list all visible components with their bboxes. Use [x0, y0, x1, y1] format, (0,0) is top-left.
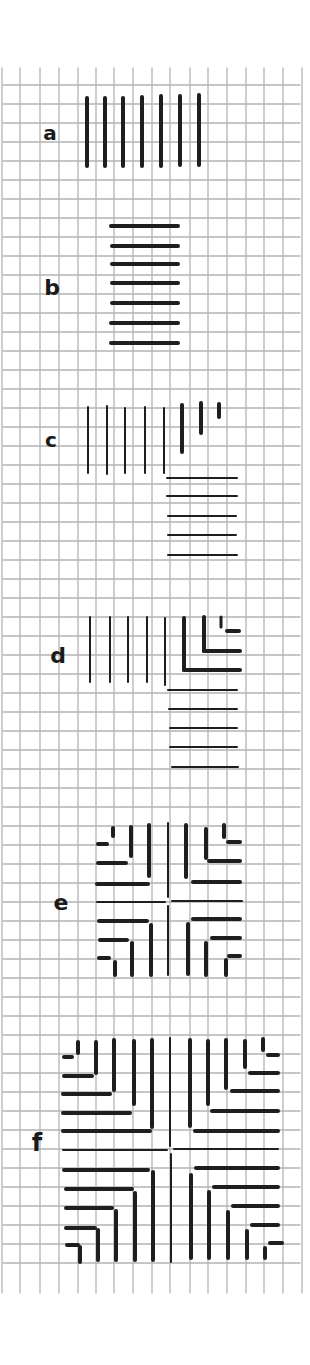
- panel-label-f: f: [32, 1131, 42, 1155]
- panel-label-c: c: [45, 430, 57, 450]
- graph-paper-figure: [0, 0, 310, 1365]
- panel-label-a: a: [43, 123, 57, 143]
- panel-label-d: d: [50, 645, 66, 667]
- panel-label-b: b: [44, 277, 60, 299]
- panel-label-e: e: [54, 892, 69, 914]
